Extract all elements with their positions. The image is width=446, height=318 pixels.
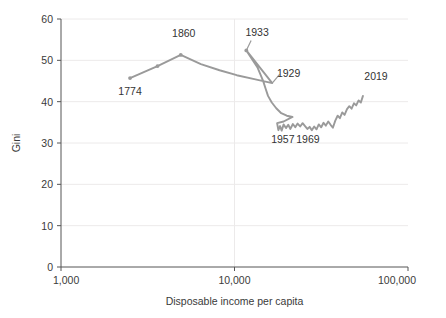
x-tick-label-100000: 100,000 [378,274,416,286]
data-point-marker [179,53,183,57]
annotation-2019: 2019 [364,70,388,82]
y-tick-label-60: 60 [41,13,53,25]
series-markers [128,49,248,80]
y-axis-title: Gini [10,134,22,153]
annotation-1933: 1933 [245,26,269,38]
y-tick-label-40: 40 [41,96,53,108]
leader-line-1933 [246,41,251,51]
annotation-1774: 1774 [118,85,142,97]
y-tick-label-10: 10 [41,220,53,232]
annotation-1860: 1860 [172,27,196,39]
x-axis-title: Disposable income per capita [166,295,304,307]
annotation-1929: 1929 [277,67,301,79]
data-point-marker [156,64,160,68]
x-axis-ticks: 1,00010,000100,000 [53,267,416,286]
data-point-marker [128,76,132,80]
year-annotations: 1774186019331929195719692019 [118,26,387,145]
x-tick-label-1000: 1,000 [53,274,79,286]
annotation-1957: 1957 [271,133,295,145]
y-tick-label-0: 0 [47,261,53,273]
annotation-1969: 1969 [296,133,320,145]
y-tick-label-30: 30 [41,137,53,149]
annotation-leader-lines [246,41,279,84]
y-tick-label-50: 50 [41,54,53,66]
y-tick-label-20: 20 [41,178,53,190]
gini-income-chart: 0102030405060 1,00010,000100,000 1774186… [0,0,446,318]
gini-series-line [130,50,363,130]
chart-svg: 0102030405060 1,00010,000100,000 1774186… [0,0,446,318]
x-tick-label-10000: 10,000 [218,274,250,286]
y-axis-ticks: 0102030405060 [41,13,61,273]
